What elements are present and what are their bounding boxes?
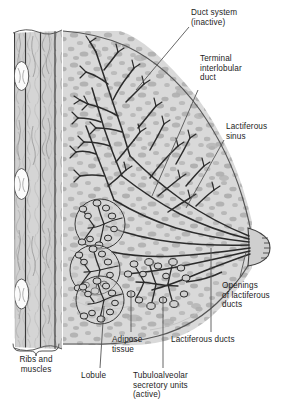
ribs-and-muscles-region	[12, 28, 64, 352]
label-duct-system: Duct system (inactive)	[191, 8, 237, 27]
label-lactiferous-ducts: Lactiferous ducts	[171, 335, 235, 345]
label-ribs-and-muscles: Ribs and muscles	[11, 355, 61, 374]
lobule	[76, 276, 124, 324]
label-openings-of-lactiferous-ducts: Openings of lactiferous ducts	[222, 281, 270, 310]
nipple	[248, 228, 270, 266]
anatomy-illustration	[0, 0, 289, 416]
breast-anatomy-figure: Duct system (inactive) Terminal interlob…	[0, 0, 289, 416]
label-lobule: Lobule	[81, 371, 106, 381]
lobule	[75, 199, 125, 249]
label-adipose-tissue: Adipose tissue	[112, 335, 142, 354]
rib	[14, 169, 29, 200]
rib	[14, 62, 28, 91]
label-tubuloalveolar-secretory-units: Tubuloalveolar secretory units (active)	[133, 371, 188, 400]
label-terminal-interlobular-duct: Terminal interlobular duct	[200, 54, 242, 83]
label-lactiferous-sinus: Lactiferous sinus	[226, 122, 267, 141]
lobule-cluster	[70, 199, 125, 324]
rib	[14, 279, 28, 309]
